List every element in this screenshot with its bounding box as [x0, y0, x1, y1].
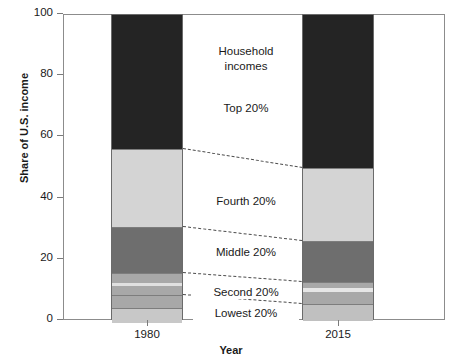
bar-2015-segment-middle-20[interactable] [303, 241, 373, 282]
x-tick-label-2015: 2015 [293, 328, 383, 340]
y-tick-mark-80 [57, 74, 63, 75]
x-tick-mark-1980 [147, 320, 148, 326]
y-tick-mark-0 [57, 319, 63, 320]
bar-2015-segment-fourth-20[interactable] [303, 168, 373, 241]
y-tick-mark-100 [57, 13, 63, 14]
bar-2015-segment-top-20[interactable] [303, 15, 373, 168]
y-tick-label-100: 100 [34, 6, 53, 18]
bar-2015-segment-second-20[interactable] [303, 282, 373, 304]
y-tick-label-0: 0 [47, 312, 53, 324]
bar-1980-segment-second-20[interactable] [112, 273, 182, 295]
bar-2015-segment-lowest-20[interactable] [303, 304, 373, 321]
bar-1980-segment-top-20[interactable] [112, 15, 182, 149]
y-tick-label-20: 20 [40, 251, 53, 263]
bar-1980-segment-lowest-20[interactable] [112, 295, 182, 321]
y-tick-label-40: 40 [40, 190, 53, 202]
bar-1980-second-20-band [112, 283, 182, 286]
y-tick-label-60: 60 [40, 128, 53, 140]
x-tick-label-1980: 1980 [102, 328, 192, 340]
annotation-lowest-20: Lowest 20% [193, 306, 299, 320]
x-tick-mark-2015 [338, 320, 339, 326]
chart-container: Share of U.S. income 100 80 60 40 20 0 [0, 0, 462, 358]
y-axis-title: Share of U.S. income [18, 28, 30, 228]
y-tick-mark-20 [57, 258, 63, 259]
annotation-household-incomes: Household incomes [200, 44, 292, 74]
annotation-second-20: Second 20% [193, 285, 299, 299]
bar-1980-segment-middle-20[interactable] [112, 227, 182, 273]
bar-1980[interactable] [111, 14, 183, 320]
x-axis-title: Year [0, 344, 462, 356]
y-tick-mark-40 [57, 197, 63, 198]
y-tick-mark-60 [57, 135, 63, 136]
y-tick-label-80: 80 [40, 67, 53, 79]
bar-1980-segment-fourth-20[interactable] [112, 149, 182, 227]
annotation-middle-20: Middle 20% [194, 245, 298, 259]
bar-2015[interactable] [302, 14, 374, 320]
annotation-household-line2: incomes [203, 59, 289, 74]
bar-2015-second-20-band [303, 288, 373, 292]
annotation-fourth-20: Fourth 20% [194, 194, 298, 208]
annotation-top-20: Top 20% [200, 101, 292, 115]
annotation-household-line1: Household [203, 44, 289, 59]
